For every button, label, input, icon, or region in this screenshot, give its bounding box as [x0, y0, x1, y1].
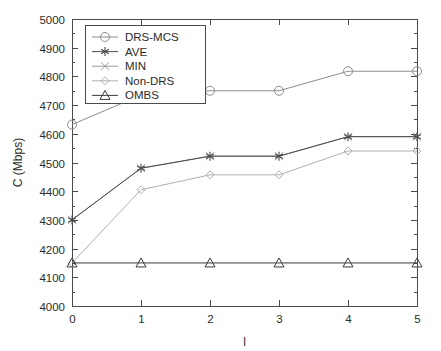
legend-item-drs-mcs[interactable]: DRS-MCS — [92, 31, 179, 43]
y-tick-label: 4500 — [39, 158, 65, 170]
x-tick-label: 3 — [276, 313, 282, 325]
x-tick-label: 1 — [138, 313, 144, 325]
line-chart-plot: 4000410042004300440045004600470048004900… — [0, 0, 441, 351]
y-tick-label: 4600 — [39, 129, 65, 141]
y-tick-label: 4100 — [39, 272, 65, 284]
y-tick-label: 5000 — [39, 14, 65, 26]
x-tick-label: 5 — [414, 313, 420, 325]
y-tick-label: 4900 — [39, 43, 65, 55]
y-tick-label: 4400 — [39, 186, 65, 198]
legend-label: OMBS — [125, 89, 159, 101]
series-ombs — [67, 258, 422, 267]
legend-label: DRS-MCS — [125, 31, 179, 43]
legend-label: AVE — [125, 46, 147, 58]
legend-label: Non-DRS — [125, 75, 175, 87]
x-tick-label: 0 — [69, 313, 75, 325]
y-axis-title: C (Mbps) — [11, 138, 25, 187]
series-min — [68, 133, 421, 224]
chart-figure: 4000410042004300440045004600470048004900… — [0, 0, 441, 351]
x-axis-title: l — [243, 335, 246, 349]
y-tick-label: 4200 — [39, 244, 65, 256]
y-tick-label: 4700 — [39, 100, 65, 112]
x-tick-label: 4 — [345, 313, 352, 325]
y-tick-label: 4800 — [39, 71, 65, 83]
y-tick-label: 4300 — [39, 215, 65, 227]
series-non-drs — [68, 147, 421, 267]
y-tick-label: 4000 — [39, 301, 65, 313]
x-tick-label: 2 — [207, 313, 213, 325]
legend-label: MIN — [125, 60, 146, 72]
chart-legend: DRS-MCSAVEMINNon-DRSOMBS — [86, 26, 206, 104]
